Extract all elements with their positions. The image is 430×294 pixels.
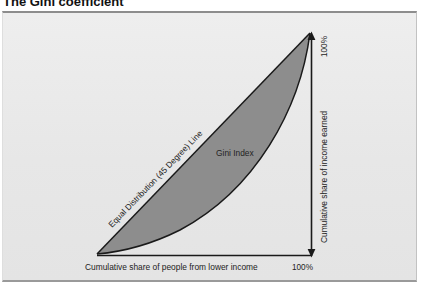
title-bar: The Gini coefficient [0, 0, 430, 11]
chart-panel-background [3, 13, 416, 280]
chart-panel [2, 11, 417, 282]
page-title: The Gini coefficient [3, 0, 124, 9]
